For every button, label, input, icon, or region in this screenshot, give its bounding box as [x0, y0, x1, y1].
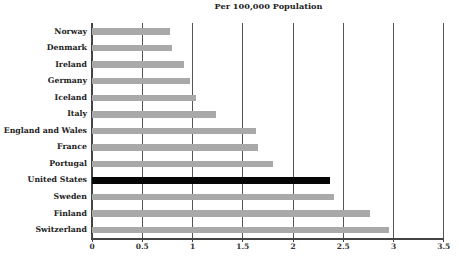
category-label: Italy — [0, 109, 87, 119]
x-tick-label: 1 — [178, 242, 208, 251]
bar-england-and-wales — [92, 128, 256, 135]
bar-sweden — [92, 194, 334, 201]
x-tick-label: 3.5 — [429, 242, 459, 251]
category-label: Norway — [0, 27, 87, 37]
x-axis-line — [91, 238, 444, 240]
bar-finland — [92, 210, 370, 217]
bar-portugal — [92, 161, 273, 168]
bar-norway — [92, 28, 170, 35]
gridline — [343, 23, 344, 239]
category-label: France — [0, 142, 87, 152]
category-label: Germany — [0, 76, 87, 86]
gridline — [293, 23, 294, 239]
gridline — [443, 23, 444, 239]
x-tick-label: 3 — [379, 242, 409, 251]
bar-ireland — [92, 61, 184, 68]
x-tick-label: 2.5 — [328, 242, 358, 251]
bar-denmark — [92, 45, 172, 52]
category-label: Switzerland — [0, 225, 87, 235]
bar-italy — [92, 111, 216, 118]
category-label: Denmark — [0, 43, 87, 53]
bar-france — [92, 144, 258, 151]
bar-switzerland — [92, 227, 389, 234]
category-label: Portugal — [0, 159, 87, 169]
x-tick-label: 1.5 — [228, 242, 258, 251]
category-label: Iceland — [0, 93, 87, 103]
bar-germany — [92, 78, 190, 85]
category-label: England and Wales — [0, 126, 87, 136]
x-tick-label: 0 — [77, 242, 107, 251]
bar-chart: 00.511.522.533.5NorwayDenmarkIrelandGerm… — [0, 0, 459, 263]
bar-iceland — [92, 95, 196, 102]
bar-united-states — [92, 177, 330, 184]
category-label: Ireland — [0, 60, 87, 70]
category-label: United States — [0, 175, 87, 185]
category-label: Sweden — [0, 192, 87, 202]
x-tick-label: 0.5 — [127, 242, 157, 251]
x-tick-label: 2 — [278, 242, 308, 251]
category-label: Finland — [0, 209, 87, 219]
gridline — [393, 23, 394, 239]
